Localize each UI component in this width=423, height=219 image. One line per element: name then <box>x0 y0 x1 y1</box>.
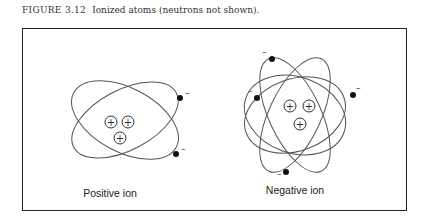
electron: – <box>173 144 186 157</box>
electron: – <box>277 169 289 179</box>
svg-text:+: + <box>296 119 304 130</box>
proton: + <box>105 116 117 128</box>
electron: – <box>177 88 190 101</box>
proton: + <box>303 100 315 112</box>
orbit <box>234 63 356 166</box>
negative-ion-label: Negative ion <box>266 184 325 196</box>
svg-text:–: – <box>262 47 267 57</box>
positive-ion-label: Positive ion <box>83 187 137 199</box>
proton: + <box>284 100 296 112</box>
svg-text:+: + <box>305 101 313 112</box>
electron: – <box>350 83 361 98</box>
orbit <box>245 48 345 182</box>
svg-text:–: – <box>248 86 253 96</box>
positive-ion-nucleus: + + + <box>105 116 134 144</box>
svg-text:+: + <box>286 101 294 112</box>
svg-text:–: – <box>181 144 186 154</box>
proton: + <box>294 118 306 130</box>
svg-text:–: – <box>277 169 282 179</box>
proton: + <box>114 132 126 144</box>
proton: + <box>122 116 134 128</box>
orbit <box>245 48 345 182</box>
svg-text:+: + <box>107 117 115 128</box>
negative-ion-nucleus: + + + <box>284 100 315 130</box>
svg-text:+: + <box>124 117 132 128</box>
svg-text:+: + <box>116 133 124 144</box>
svg-text:–: – <box>356 83 361 93</box>
electron: – <box>248 86 260 101</box>
svg-text:–: – <box>185 88 190 98</box>
electron: – <box>262 47 275 62</box>
negative-ion-diagram <box>233 48 357 182</box>
positive-ion-electrons: – – <box>173 88 190 157</box>
ion-diagrams: + + + – – Positive ion + + + – – – – Neg… <box>0 0 423 219</box>
